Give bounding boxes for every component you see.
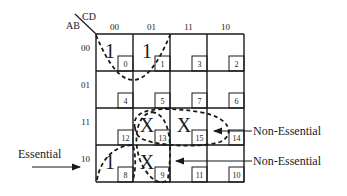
kmap-cell: 14 [229, 130, 244, 145]
row-var-label: AB [66, 20, 80, 31]
cell-index: 8 [124, 171, 128, 180]
kmap-cell: 5 [155, 93, 170, 108]
col-var-label: CD [82, 11, 96, 22]
kmap-cell: 15X [177, 114, 207, 145]
cell-index: 11 [196, 171, 204, 180]
cell-index: 4 [124, 97, 128, 106]
cell-value: X [177, 114, 192, 136]
row-header: 00 [81, 43, 91, 53]
karnaugh-map: CD AB 00011110 00011110 01113245761213X1… [0, 0, 347, 196]
cell-index: 9 [161, 171, 165, 180]
cell-value: 1 [105, 40, 115, 62]
kmap-cell: 9X [140, 151, 170, 182]
cell-index: 7 [198, 97, 202, 106]
row-header: 01 [81, 80, 90, 90]
kmap-cell: 4 [118, 93, 133, 108]
kmap-cell: 81 [105, 151, 133, 182]
non-essential-label-1: Non-Essential [253, 124, 322, 138]
kmap-cell: 6 [229, 93, 244, 108]
cell-index: 1 [161, 60, 165, 69]
cell-index: 6 [235, 97, 239, 106]
kmap-cell: 3 [192, 56, 207, 71]
cell-index: 12 [122, 134, 130, 143]
kmap-cell: 11 [142, 40, 170, 71]
kmap-cell: 2 [229, 56, 244, 71]
group-loop-m8-essential [97, 145, 135, 182]
kmap-cell: 01 [105, 40, 133, 71]
kmap-cell: 11 [192, 167, 207, 182]
cell-value: X [140, 151, 155, 173]
col-header: 10 [221, 22, 231, 32]
col-header: 11 [184, 22, 193, 32]
cell-value: 1 [142, 40, 152, 62]
kmap-cell: 7 [192, 93, 207, 108]
cell-index: 2 [235, 60, 239, 69]
cell-index: 5 [161, 97, 165, 106]
col-header: 01 [147, 22, 156, 32]
kmap-cell: 10 [229, 167, 244, 182]
cell-index: 14 [233, 134, 241, 143]
cell-index: 10 [233, 171, 241, 180]
essential-label: Essential [18, 147, 62, 161]
col-header: 00 [110, 22, 120, 32]
cell-index: 13 [159, 134, 167, 143]
row-header: 10 [81, 154, 91, 164]
kmap-cell: 12 [118, 130, 133, 145]
row-header: 11 [81, 117, 90, 127]
cell-value: X [140, 114, 155, 136]
cell-index: 3 [198, 60, 202, 69]
cell-index: 15 [196, 134, 204, 143]
cell-index: 0 [124, 60, 128, 69]
non-essential-label-2: Non-Essential [253, 154, 322, 168]
